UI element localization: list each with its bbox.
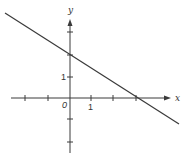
y-axis-label: y [67, 5, 74, 15]
x-axis-arrow-icon [164, 96, 171, 101]
origin-label: 0 [62, 100, 67, 110]
x-axis-label: x [175, 93, 180, 103]
y-axis-arrow-icon [68, 19, 73, 26]
x-tick-label-1: 1 [88, 102, 93, 112]
y-tick-label-1: 1 [61, 72, 66, 82]
coordinate-plane: x y 0 1 1 [0, 0, 184, 156]
